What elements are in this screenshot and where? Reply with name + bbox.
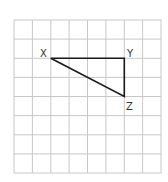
vertex-label-z: Z (126, 101, 133, 112)
grid (14, 20, 161, 173)
vertex-label-x: X (40, 48, 47, 59)
vertex-label-y: Y (126, 48, 134, 59)
triangle-grid-diagram: X Y Z (0, 0, 168, 182)
